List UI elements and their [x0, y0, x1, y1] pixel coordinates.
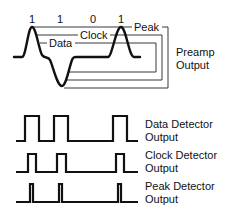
clock-detector-label: Clock Detector	[145, 149, 217, 161]
clock-label: Clock	[80, 29, 108, 41]
clock-detector-label: Output	[145, 162, 178, 174]
data-detector-waveform	[16, 116, 138, 141]
clock-detector-waveform	[16, 154, 138, 172]
data-detector-label: Output	[145, 131, 178, 143]
bit-label: 1	[57, 13, 63, 25]
preamp-output-label: Preamp	[176, 46, 215, 58]
bit-label: 1	[118, 13, 124, 25]
bit-label: 0	[90, 13, 96, 25]
preamp-output-label: Output	[176, 59, 209, 71]
data-detector-label: Data Detector	[145, 118, 213, 130]
peak-detector-label: Output	[145, 193, 178, 205]
peak-label: Peak	[134, 21, 160, 33]
peak-detector-label: Peak Detector	[145, 180, 215, 192]
peak-detector-waveform	[16, 184, 138, 202]
bit-labels: 1 1 0 1	[29, 13, 124, 25]
threshold-labels: Peak Clock Data	[47, 20, 162, 49]
bit-label: 1	[29, 13, 35, 25]
preamp-waveform	[14, 27, 140, 86]
data-label: Data	[49, 37, 73, 49]
preamp-detector-diagram: 1 1 0 1 Peak Clock Data Preamp Output Da…	[0, 0, 225, 220]
